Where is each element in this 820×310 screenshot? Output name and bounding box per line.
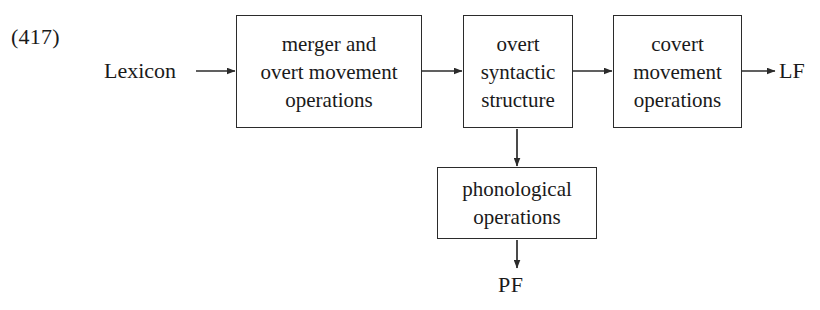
pf-label: PF bbox=[498, 272, 523, 298]
node-phonological-operations: phonological operations bbox=[437, 167, 597, 239]
node-line: overt movement bbox=[260, 58, 397, 86]
lexicon-label: Lexicon bbox=[104, 58, 176, 84]
node-line: operations bbox=[285, 86, 372, 114]
example-number: (417) bbox=[11, 24, 60, 50]
node-line: overt bbox=[496, 30, 539, 58]
node-merger-and-overt-movement-operations: merger and overt movement operations bbox=[236, 15, 422, 128]
node-line: covert bbox=[651, 30, 703, 58]
node-line: operations bbox=[634, 86, 721, 114]
node-covert-movement-operations: covert movement operations bbox=[613, 15, 742, 128]
node-line: operations bbox=[473, 203, 560, 231]
node-line: movement bbox=[633, 58, 722, 86]
node-line: syntactic bbox=[481, 58, 556, 86]
node-line: structure bbox=[481, 86, 554, 114]
lf-label: LF bbox=[779, 58, 805, 84]
node-line: phonological bbox=[462, 175, 572, 203]
derivation-diagram: (417) Lexicon merger and overt movement … bbox=[0, 0, 820, 310]
node-line: merger and bbox=[282, 30, 377, 58]
node-overt-syntactic-structure: overt syntactic structure bbox=[463, 15, 573, 128]
